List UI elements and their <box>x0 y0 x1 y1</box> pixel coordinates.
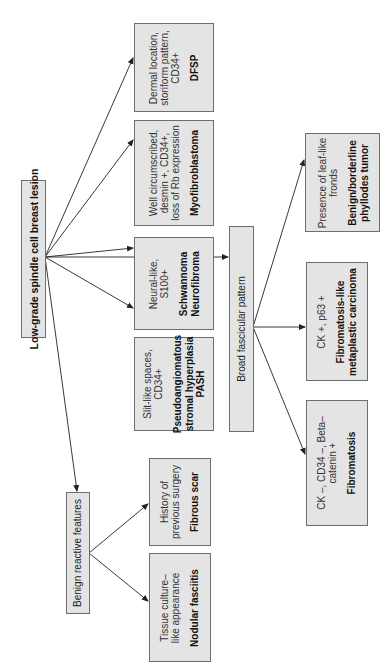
fibrous-scar-criteria: History of previous surgery <box>159 465 181 539</box>
dfsp-criteria: Dermal location, storiform pattern, CD34… <box>148 30 181 106</box>
schwannoma-criteria: Neural-like, S100+ <box>148 251 170 317</box>
metaplastic-carcinoma-box: CK +, p63 + Fibromatosis-like metaplasti… <box>306 262 368 381</box>
phyllodes-diagnosis: Benign/borderline phyllodes tumor <box>346 137 369 228</box>
benign-reactive-box: Benign reactive features <box>66 492 90 614</box>
metaplastic-diagnosis: Fibromatosis-like metaplastic carcinoma <box>335 268 358 376</box>
dfsp-diagnosis: DFSP <box>189 30 201 106</box>
root-node-label: Low-grade spindle cell breast lesion <box>28 169 40 350</box>
phyllodes-box: Presence of leaf-like fronds Benign/bord… <box>305 133 380 232</box>
dfsp-box: Dermal location, storiform pattern, CD34… <box>134 23 214 112</box>
broad-fascicular-label: Broad fascicular pattern <box>236 276 248 382</box>
fibromatosis-criteria: CK –, CD34 –, Beta– catenin + <box>316 416 338 509</box>
nodular-fasciitis-criteria: Tissue culture– like appearance <box>159 569 181 647</box>
phyllodes-criteria: Presence of leaf-like fronds <box>316 137 338 228</box>
benign-reactive-label: Benign reactive features <box>72 499 84 607</box>
metaplastic-criteria: CK +, p63 + <box>316 268 327 376</box>
pash-box: Slit-like spaces, CD34+ Pseudoangiomatou… <box>134 337 214 431</box>
nodular-fasciitis-box: Tissue culture– like appearance Nodular … <box>149 553 211 662</box>
pash-criteria: Slit-like spaces, CD34+ <box>142 335 164 433</box>
pash-diagnosis: Pseudoangiomatous stromal hyperplasia PA… <box>172 335 207 433</box>
nodular-fasciitis-diagnosis: Nodular fasciitis <box>189 569 201 647</box>
fibromatosis-box: CK –, CD34 –, Beta– catenin + Fibromatos… <box>306 400 368 526</box>
myofibroblastoma-box: Well circumscribed, desmin +, CD34+, los… <box>134 120 214 226</box>
myofibroblastoma-criteria: Well circumscribed, desmin +, CD34+, los… <box>148 125 181 221</box>
myofibroblastoma-diagnosis: Myofibroblastoma <box>189 125 201 221</box>
schwannoma-neurofibroma-box: Neural-like, S100+ Schwannoma Neurofibro… <box>134 237 214 330</box>
fibrous-scar-box: History of previous surgery Fibrous scar <box>149 458 211 546</box>
schwannoma-diagnosis: Schwannoma Neurofibroma <box>178 251 201 317</box>
root-node-box: Low-grade spindle cell breast lesion <box>21 180 46 338</box>
fibrous-scar-diagnosis: Fibrous scar <box>189 465 201 539</box>
fibromatosis-diagnosis: Fibromatosis <box>346 416 358 509</box>
broad-fascicular-box: Broad fascicular pattern <box>229 226 254 432</box>
